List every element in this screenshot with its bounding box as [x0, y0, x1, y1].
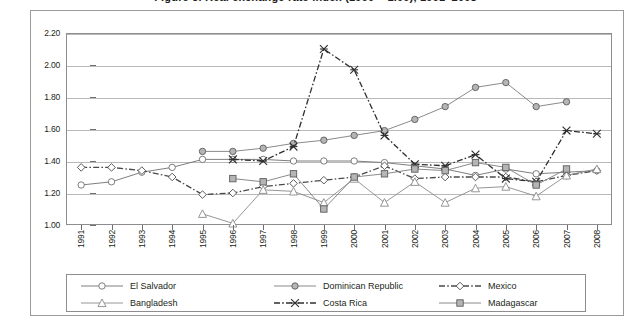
x-axis-tick-label: 1999 — [319, 230, 329, 248]
gridline — [67, 130, 611, 131]
legend-item-dominican-republic[interactable]: Dominican Republic — [272, 278, 403, 294]
legend-item-costa-rica[interactable]: Costa Rica — [272, 295, 367, 311]
gridline — [67, 162, 611, 163]
legend-label: Dominican Republic — [323, 281, 403, 291]
x-axis-tick-label: 2006 — [531, 230, 541, 248]
y-axis-tick-label: 2.00 — [44, 60, 60, 70]
y-axis-tick-label: 2.20 — [44, 28, 60, 38]
plot-area — [66, 33, 612, 225]
legend-marker-diamond-open — [437, 279, 483, 293]
x-axis-tick-label: 2007 — [562, 230, 572, 248]
x-axis-tick-label: 2001 — [380, 230, 390, 248]
page-title: Figure 3. Real exchange rate index (1990… — [0, 0, 631, 3]
legend-item-el-salvador[interactable]: El Salvador — [79, 278, 176, 294]
y-axis-tick-label: 1.20 — [44, 188, 60, 198]
y-axis-tick-label: 1.80 — [44, 92, 60, 102]
x-axis-tick-label: 1997 — [258, 230, 268, 248]
x-axis-tick-label: 1998 — [289, 230, 299, 248]
x-axis-tick-label: 1992 — [107, 230, 117, 248]
gridline — [67, 194, 611, 195]
legend-marker-circle-open — [79, 279, 125, 293]
x-axis-tick-label: 1994 — [167, 230, 177, 248]
legend-marker-square-filled — [437, 296, 483, 310]
chart-legend: El SalvadorDominican RepublicMexico Bang… — [66, 274, 586, 312]
y-axis-tick-mark — [90, 225, 96, 226]
chart-title-strip: Figure 3. Real exchange rate index (1990… — [0, 0, 631, 9]
gridline — [67, 98, 611, 99]
legend-label: Costa Rica — [323, 298, 367, 308]
data-point-circle-filled — [292, 283, 298, 289]
legend-row-2: BangladeshCosta RicaMadagascar — [67, 295, 585, 311]
x-axis-tick-label: 1991 — [76, 230, 86, 248]
x-axis-tick-label: 2005 — [501, 230, 511, 248]
x-axis-tick-label: 2003 — [440, 230, 450, 248]
y-axis-tick-label: 1.40 — [44, 156, 60, 166]
data-point-circle-open — [99, 283, 105, 289]
legend-marker-circle-filled — [272, 279, 318, 293]
legend-marker-x — [272, 296, 318, 310]
legend-label: Mexico — [488, 281, 517, 291]
legend-item-madagascar[interactable]: Madagascar — [437, 295, 538, 311]
gridline — [67, 34, 611, 35]
legend-item-mexico[interactable]: Mexico — [437, 278, 517, 294]
x-axis-tick-label: 2000 — [349, 230, 359, 248]
y-axis-tick-label: 1.00 — [44, 220, 60, 230]
x-axis-tick-label: 2004 — [471, 230, 481, 248]
legend-label: Madagascar — [488, 298, 538, 308]
x-axis-tick-label: 2002 — [410, 230, 420, 248]
legend-label: El Salvador — [130, 281, 176, 291]
y-axis-tick-label: 1.60 — [44, 124, 60, 134]
y-axis: 1.001.201.401.601.802.002.20 — [30, 10, 66, 316]
x-axis-tick-label: 1993 — [137, 230, 147, 248]
x-axis-tick-label: 1995 — [198, 230, 208, 248]
gridline — [67, 66, 611, 67]
legend-label: Bangladesh — [130, 298, 178, 308]
legend-row-1: El SalvadorDominican RepublicMexico — [67, 278, 585, 294]
x-axis-tick-label: 1996 — [228, 230, 238, 248]
legend-item-bangladesh[interactable]: Bangladesh — [79, 295, 178, 311]
x-axis-tick-label: 2008 — [592, 230, 602, 248]
data-point-square-filled — [457, 300, 463, 306]
data-point-x — [291, 299, 299, 307]
chart-figure: Figure 3. Real exchange rate index (1990… — [0, 0, 631, 322]
legend-marker-triangle-open — [79, 296, 125, 310]
data-point-diamond-open — [456, 282, 464, 290]
